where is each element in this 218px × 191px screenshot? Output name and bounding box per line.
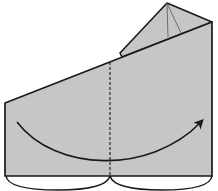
rounded-bottom-edges [6,176,212,190]
origami-diagram: Paper model folded in half along the das… [0,0,218,191]
main-paper-body [5,22,212,176]
